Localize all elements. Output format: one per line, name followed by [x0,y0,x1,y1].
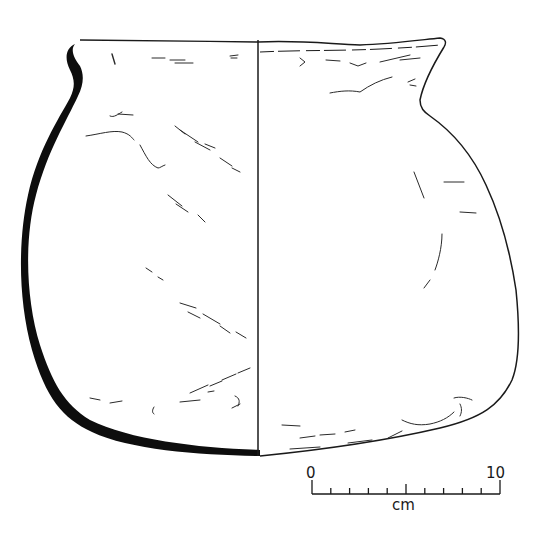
interior-rim-line [260,45,440,52]
scale-bar [312,480,500,494]
surface-texture-right [282,55,476,449]
rim-line [80,38,445,47]
scale-start-label: 0 [306,466,316,481]
surface-texture-left [86,54,250,414]
scale-end-label: 10 [486,466,505,481]
pottery-drawing [0,0,547,537]
vessel-section-wall [21,44,260,456]
vessel-exterior-profile [260,47,519,456]
scale-unit-label: cm [392,498,415,513]
